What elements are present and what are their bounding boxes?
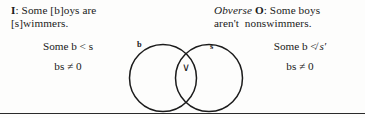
venn-diagram: b s ∨ (125, 36, 247, 116)
formula-left-relation: Some b < s (0, 40, 136, 53)
venn-label-s: s (210, 42, 213, 51)
formula-left-equation: bs ≠ 0 (0, 60, 136, 73)
proposition-right: Obverse O: Some boys aren't nonswimmers. (214, 4, 358, 30)
proposition-left-text-1: Some [b]oys are (22, 4, 97, 16)
bottom-divider (0, 113, 365, 114)
proposition-right-line-1: Obverse O: Some boys (214, 4, 358, 17)
proposition-left-line-2: [s]wimmers. (11, 17, 139, 30)
formula-right-relation-term: s′ (319, 40, 326, 52)
venn-circle-b (130, 45, 197, 112)
formula-right-equation: bs ≠ 0 (236, 60, 364, 73)
venn-intersection-mark: ∨ (178, 61, 194, 74)
proposition-right-text-1: Some boys (270, 4, 320, 16)
proposition-right-prefix: Obverse (214, 4, 252, 16)
proposition-left-line-1: I: Some [b]oys are (11, 4, 139, 17)
venn-svg (125, 36, 247, 116)
logic-figure: I: Some [b]oys are [s]wimmers. Obverse O… (0, 0, 365, 118)
formula-right-relation-prefix: Some b ≮ (274, 40, 320, 52)
venn-label-b: b (137, 40, 142, 49)
formula-right-relation: Some b ≮ s′ (236, 40, 364, 53)
venn-circle-s (176, 45, 243, 112)
proposition-right-form-label: O (255, 4, 264, 16)
proposition-right-line-2: aren't nonswimmers. (214, 17, 358, 30)
proposition-left: I: Some [b]oys are [s]wimmers. (11, 4, 139, 30)
